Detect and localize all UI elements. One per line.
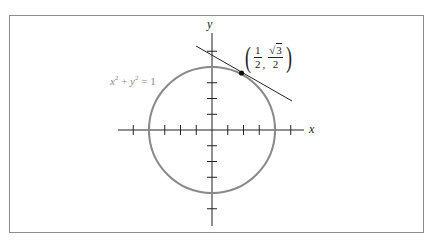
left-paren: ( [245,42,251,72]
circle-equation-label: x2 + y2 = 1 [110,74,156,87]
unit-circle-diagram [0,0,436,244]
y-axis-label: y [207,17,212,32]
y-fraction: √3 2 [268,44,283,71]
x-denominator: 2 [255,58,261,71]
eq-rhs: = 1 [139,75,156,87]
y-denominator: 2 [273,58,279,71]
x-numerator: 1 [254,44,262,58]
x-axis-label: x [309,122,314,137]
y-numerator: √3 [268,44,283,58]
eq-plus: + [118,75,130,87]
y-radicand: 3 [276,43,282,56]
point-coordinates-label: ( 1 2 , √3 2 ) [243,38,294,76]
right-paren: ) [286,42,292,72]
comma: , [263,58,266,70]
sqrt-icon: √ [269,44,275,56]
x-fraction: 1 2 [254,44,262,71]
